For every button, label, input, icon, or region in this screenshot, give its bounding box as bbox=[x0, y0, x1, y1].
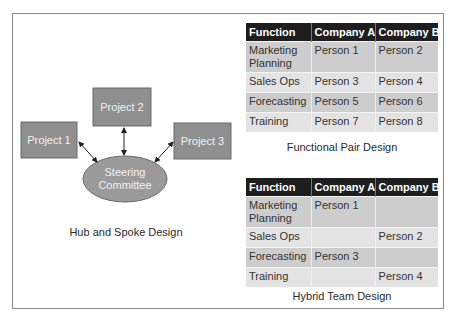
table-row: Forecasting Person 5 Person 6 bbox=[246, 93, 438, 113]
cell-function: Training bbox=[246, 268, 311, 288]
arrow-project-1-hub bbox=[79, 142, 97, 162]
cell-company-a bbox=[311, 268, 375, 288]
cell-function: Marketing Planning bbox=[246, 42, 311, 73]
arrow-project-3-hub bbox=[155, 142, 173, 162]
table-header-row: Function Company A Company B bbox=[246, 23, 438, 42]
table-row: Sales Ops Person 3 Person 4 bbox=[246, 73, 438, 93]
table-row: Training Person 4 bbox=[246, 268, 438, 288]
cell-company-b: Person 2 bbox=[375, 42, 438, 73]
cell-function: Sales Ops bbox=[246, 73, 311, 93]
cell-company-a: Person 5 bbox=[311, 93, 375, 113]
cell-company-b bbox=[375, 197, 438, 228]
table-row: Marketing Planning Person 1 Person 2 bbox=[246, 42, 438, 73]
table-row: Marketing Planning Person 1 bbox=[246, 197, 438, 228]
header-function: Function bbox=[246, 23, 311, 42]
table-row: Forecasting Person 3 bbox=[246, 248, 438, 268]
header-company-a: Company A bbox=[311, 178, 375, 197]
hub-label: Steering Committee bbox=[83, 162, 167, 196]
cell-function: Forecasting bbox=[246, 93, 311, 113]
hybrid-team-table: Function Company A Company B Marketing P… bbox=[246, 178, 438, 287]
cell-company-b: Person 8 bbox=[375, 113, 438, 133]
project-3-label: Project 3 bbox=[174, 123, 231, 159]
cell-company-a bbox=[311, 228, 375, 248]
cell-company-a: Person 1 bbox=[311, 197, 375, 228]
header-function: Function bbox=[246, 178, 311, 197]
cell-company-b: Person 2 bbox=[375, 228, 438, 248]
project-2-label: Project 2 bbox=[93, 88, 151, 126]
hub-label-line1: Steering bbox=[105, 166, 146, 179]
header-company-b: Company B bbox=[375, 178, 438, 197]
project-1-label: Project 1 bbox=[21, 122, 77, 158]
cell-company-a: Person 7 bbox=[311, 113, 375, 133]
header-company-b: Company B bbox=[375, 23, 438, 42]
cell-function: Training bbox=[246, 113, 311, 133]
functional-pair-caption: Functional Pair Design bbox=[272, 141, 412, 153]
cell-company-a: Person 3 bbox=[311, 248, 375, 268]
cell-company-b: Person 4 bbox=[375, 73, 438, 93]
cell-company-b: Person 4 bbox=[375, 268, 438, 288]
cell-company-b bbox=[375, 248, 438, 268]
cell-company-a: Person 1 bbox=[311, 42, 375, 73]
cell-company-a: Person 3 bbox=[311, 73, 375, 93]
cell-company-b: Person 6 bbox=[375, 93, 438, 113]
cell-function: Forecasting bbox=[246, 248, 311, 268]
cell-function: Marketing Planning bbox=[246, 197, 311, 228]
hub-and-spoke-caption: Hub and Spoke Design bbox=[56, 226, 196, 238]
cell-function: Sales Ops bbox=[246, 228, 311, 248]
table-row: Sales Ops Person 2 bbox=[246, 228, 438, 248]
table-row: Training Person 7 Person 8 bbox=[246, 113, 438, 133]
hub-label-line2: Committee bbox=[98, 179, 151, 192]
header-company-a: Company A bbox=[311, 23, 375, 42]
functional-pair-table: Function Company A Company B Marketing P… bbox=[246, 23, 438, 132]
table-header-row: Function Company A Company B bbox=[246, 178, 438, 197]
hybrid-team-caption: Hybrid Team Design bbox=[272, 290, 412, 302]
